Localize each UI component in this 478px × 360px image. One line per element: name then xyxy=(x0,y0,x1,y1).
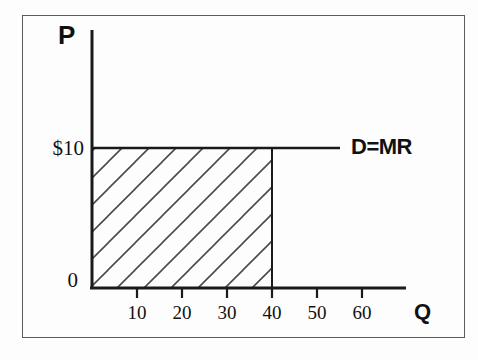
y-axis-title: P xyxy=(58,22,75,48)
price-axis-label: $10 xyxy=(26,138,84,159)
x-tick-label-50: 50 xyxy=(298,303,336,322)
chart-page: P Q D=MR $10 0 10 20 30 40 50 60 xyxy=(0,0,478,360)
x-tick-label-60: 60 xyxy=(343,303,381,322)
x-tick-label-40: 40 xyxy=(253,303,291,322)
demand-mr-label: D=MR xyxy=(351,136,412,158)
x-tick-label-10: 10 xyxy=(118,303,156,322)
x-tick-label-30: 30 xyxy=(208,303,246,322)
origin-axis-label: 0 xyxy=(26,270,78,291)
x-tick-label-20: 20 xyxy=(163,303,201,322)
total-revenue-rectangle xyxy=(92,148,272,288)
x-axis-title: Q xyxy=(414,301,431,323)
